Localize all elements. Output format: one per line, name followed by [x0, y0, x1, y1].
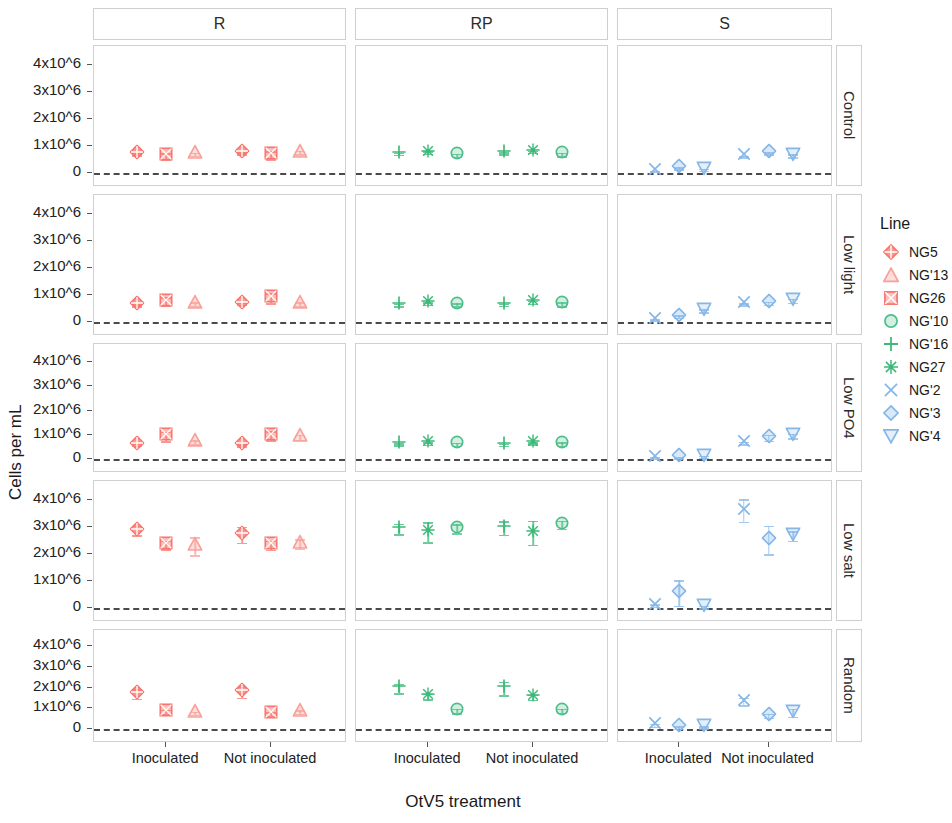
data-point	[235, 525, 250, 544]
data-point	[555, 434, 570, 453]
data-point	[555, 295, 570, 314]
legend-key-triangle-icon	[880, 264, 902, 286]
data-point	[647, 448, 662, 467]
legend-item-ng27[interactable]: NG27	[880, 355, 948, 378]
data-point	[786, 291, 801, 310]
y-axis-tick-label: 1x10^6	[0, 570, 81, 587]
data-point	[130, 521, 145, 540]
y-axis-tick-mark	[87, 458, 92, 459]
data-point	[736, 434, 751, 453]
facet-panel-s-random	[617, 629, 832, 742]
facet-strip-row-label: Random	[841, 657, 858, 714]
data-point	[736, 501, 751, 520]
legend-item-ng2[interactable]: NG'2	[880, 378, 948, 401]
y-axis-tick-label: 4x10^6	[0, 203, 81, 220]
legend-item-ng13[interactable]: NG'13	[880, 263, 948, 286]
legend-item-label: NG'10	[909, 313, 948, 329]
y-axis-tick-mark	[87, 240, 92, 241]
data-point	[235, 144, 250, 163]
facet-strip-row-random: Random	[836, 629, 862, 742]
y-axis-tick-mark	[87, 434, 92, 435]
x-axis-tick-mark	[768, 742, 769, 747]
facet-strip-row-low-light: Low light	[836, 194, 862, 335]
y-axis-tick-label: 2x10^6	[0, 543, 81, 560]
data-point	[555, 515, 570, 534]
facet-strip-column-r: R	[93, 8, 346, 40]
y-axis-tick-mark	[87, 580, 92, 581]
legend-item-ng10[interactable]: NG'10	[880, 309, 948, 332]
data-point	[555, 145, 570, 164]
data-point	[526, 434, 541, 453]
data-point	[647, 162, 662, 181]
y-axis-tick-label: 4x10^6	[0, 351, 81, 368]
error-bar-cap	[528, 545, 538, 547]
data-point	[697, 447, 712, 466]
data-point	[497, 295, 512, 314]
legend-item-label: NG'13	[909, 267, 948, 283]
facet-panel-s-low-po4	[617, 343, 832, 472]
zero-reference-line	[356, 608, 607, 610]
x-axis-tick-mark	[678, 742, 679, 747]
data-point	[672, 718, 687, 737]
data-point	[526, 293, 541, 312]
data-point	[130, 435, 145, 454]
legend-item-ng5[interactable]: NG5	[880, 240, 948, 263]
zero-reference-line	[94, 729, 345, 731]
y-axis-tick-label: 0	[0, 162, 81, 179]
data-point	[736, 147, 751, 166]
y-axis-tick-mark	[87, 707, 92, 708]
y-axis-tick-mark	[87, 728, 92, 729]
data-point	[159, 702, 174, 721]
data-point	[672, 583, 687, 602]
data-point	[264, 146, 279, 165]
facet-panel-r-low-light	[93, 194, 346, 335]
data-point	[421, 523, 436, 542]
legend-item-ng26[interactable]: NG26	[880, 286, 948, 309]
data-point	[526, 142, 541, 161]
error-bar-cap	[764, 526, 774, 528]
facet-strip-row-label: Low PO4	[841, 377, 858, 439]
y-axis-tick-label: 2x10^6	[0, 108, 81, 125]
y-axis-tick-mark	[87, 410, 92, 411]
data-point	[392, 435, 407, 454]
error-bar-cap	[528, 521, 538, 523]
zero-reference-line	[94, 459, 345, 461]
y-axis-tick-label: 3x10^6	[0, 516, 81, 533]
y-axis-tick-mark	[87, 267, 92, 268]
legend-item-label: NG'3	[909, 405, 940, 421]
y-axis-tick-label: 0	[0, 718, 81, 735]
data-point	[697, 160, 712, 179]
data-point	[786, 526, 801, 545]
data-point	[786, 703, 801, 722]
data-point	[421, 294, 436, 313]
data-point	[293, 535, 308, 554]
facet-strip-row-label: Control	[841, 91, 858, 139]
legend-item-ng16[interactable]: NG'16	[880, 332, 948, 355]
facet-panel-s-control	[617, 45, 832, 186]
y-axis-tick-label: 0	[0, 597, 81, 614]
legend-key-circle-open-icon	[880, 310, 902, 332]
legend-item-label: NG'16	[909, 336, 948, 352]
data-point	[761, 428, 776, 447]
data-point	[235, 683, 250, 702]
y-axis-tick-mark	[87, 64, 92, 65]
legend-item-ng4[interactable]: NG'4	[880, 424, 948, 447]
legend-item-label: NG5	[909, 244, 938, 260]
y-axis-tick-label: 3x10^6	[0, 656, 81, 673]
data-point	[421, 143, 436, 162]
legend-key-diamond-plus-icon	[880, 241, 902, 263]
data-point	[672, 448, 687, 467]
data-point	[293, 143, 308, 162]
facet-panel-s-low-light	[617, 194, 832, 335]
data-point	[392, 296, 407, 315]
x-axis-tick-mark	[427, 742, 428, 747]
facet-panel-rp-control	[355, 45, 608, 186]
data-point	[130, 684, 145, 703]
data-point	[450, 701, 465, 720]
y-axis-tick-mark	[87, 361, 92, 362]
y-axis-tick-mark	[87, 666, 92, 667]
facet-strip-column-s: S	[617, 8, 832, 40]
data-point	[450, 295, 465, 314]
legend-item-ng3[interactable]: NG'3	[880, 401, 948, 424]
y-axis-tick-mark	[87, 294, 92, 295]
